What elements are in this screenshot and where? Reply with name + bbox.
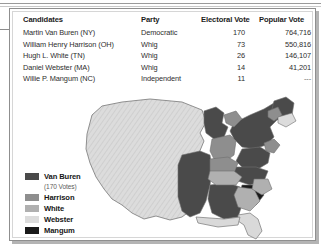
region-gulf-coast [196,217,240,227]
election-map-figure: Candidates Party Electoral Vote Popular … [0,0,321,249]
cell-electoral-vote: 26 [201,51,259,60]
cell-electoral-vote: 170 [201,28,259,37]
cell-party: Whig [141,40,201,49]
state-van-buren-virginia [236,147,270,169]
legend-swatch-webster [25,216,39,223]
cell-popular-vote: 764,716 [259,28,311,37]
cell-party: Whig [141,63,201,72]
legend-label-white: White [44,204,64,213]
legend-label-van-buren: Van Buren [44,172,81,181]
map-container [78,93,314,243]
legend-label-mangum: Mangum [44,226,75,235]
table-body: Martin Van Buren (NY) Democratic 170 764… [23,28,311,86]
top-rule-light [0,6,321,7]
election-results-table: Candidates Party Electoral Vote Popular … [23,15,311,86]
cell-candidate: William Henry Harrison (OH) [23,40,141,49]
legend-swatch-harrison [25,194,39,201]
column-header-electoral-vote: Electoral Vote [201,15,259,24]
column-header-popular-vote: Popular Vote [259,15,311,24]
legend-item-mangum: Mangum [25,225,111,236]
cell-candidate: Willie P. Mangum (NC) [23,74,141,83]
legend-item-harrison: Harrison [25,192,111,203]
table-row: Martin Van Buren (NY) Democratic 170 764… [23,28,311,40]
region-florida-territory [238,213,262,239]
table-row: Hugh L. White (TN) Whig 26 146,107 [23,51,311,63]
map-legend: Van Buren (170 Votes) Harrison White Web… [25,171,111,236]
cell-electoral-vote: 14 [201,63,259,72]
state-harrison-ohio-indiana [210,135,236,161]
cell-party: Whig [141,51,201,60]
state-white-tennessee [208,171,242,185]
legend-item-white: White [25,203,111,214]
legend-swatch-mangum [25,227,39,234]
cell-candidate: Daniel Webster (MA) [23,63,141,72]
legend-item-van-buren: Van Buren [25,171,111,182]
cell-candidate: Hugh L. White (TN) [23,51,141,60]
cell-candidate: Martin Van Buren (NY) [23,28,141,37]
table-row: Daniel Webster (MA) Whig 14 41,201 [23,63,311,75]
legend-sublabel-van-buren-votes: (170 Votes) [44,182,111,192]
legend-swatch-white [25,205,39,212]
top-rule-dark [0,3,321,4]
cell-electoral-vote: 73 [201,40,259,49]
cell-popular-vote: 550,816 [259,40,311,49]
state-van-buren-missouri-arkansas [178,151,212,217]
legend-item-webster: Webster [25,214,111,225]
table-header-row: Candidates Party Electoral Vote Popular … [23,15,311,28]
legend-label-webster: Webster [44,215,73,224]
cell-popular-vote: 41,201 [259,63,311,72]
figure-panel: Candidates Party Electoral Vote Popular … [9,8,316,241]
column-header-candidates: Candidates [23,15,141,24]
table-row: Willie P. Mangum (NC) Independent 11 --- [23,74,311,86]
united-states-electoral-map-1836 [78,93,314,243]
cell-electoral-vote: 11 [201,74,259,83]
cell-party: Independent [141,74,201,83]
left-tick-mark [0,29,9,30]
legend-label-harrison: Harrison [44,193,74,202]
cell-popular-vote: --- [259,74,311,83]
column-header-party: Party [141,15,201,24]
cell-popular-vote: 146,107 [259,51,311,60]
table-row: William Henry Harrison (OH) Whig 73 550,… [23,40,311,52]
cell-party: Democratic [141,28,201,37]
legend-swatch-van-buren [25,173,39,180]
